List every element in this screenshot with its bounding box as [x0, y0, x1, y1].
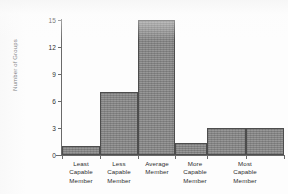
x-axis-label-line: Most: [223, 160, 267, 168]
y-tick-3: 3: [0, 128, 62, 129]
bar-4: [207, 128, 246, 155]
x-axis-label-line: Member: [97, 177, 141, 185]
x-tick-mark-0: [62, 156, 63, 159]
plot-area: [62, 20, 284, 155]
x-axis-label-line: More: [173, 160, 217, 168]
x-axis-label-line: Member: [223, 177, 267, 185]
x-tick-mark-1: [100, 156, 101, 159]
x-axis-label-3: MoreCapableMember: [173, 160, 217, 185]
y-tick-label: 15: [49, 17, 56, 24]
y-tick-15: 15: [0, 20, 62, 21]
x-axis-label-line: Capable: [223, 168, 267, 176]
y-tick-label: 9: [52, 71, 56, 78]
y-tick-6: 6: [0, 101, 62, 102]
y-tick-label: 6: [52, 98, 56, 105]
x-tick-mark-4: [207, 156, 208, 159]
x-axis-label-4: MostCapableMember: [223, 160, 267, 185]
y-tick-12: 12: [0, 47, 62, 48]
x-axis-label-line: Member: [173, 177, 217, 185]
x-tick-mark-6: [284, 156, 285, 159]
y-tick-label: 12: [49, 44, 56, 51]
bar-0: [62, 146, 100, 155]
x-tick-mark-2: [138, 156, 139, 159]
bar-5: [246, 128, 284, 155]
y-tick-0: 0: [0, 155, 62, 156]
bar-1: [100, 92, 138, 155]
y-tick-9: 9: [0, 74, 62, 75]
x-axis-label-line: Capable: [173, 168, 217, 176]
x-tick-mark-3: [175, 156, 176, 159]
bar-chart-figure: Number of Groups 03691215 LeastCapableMe…: [0, 0, 288, 194]
bar-3: [175, 143, 207, 155]
x-tick-mark-5: [246, 156, 247, 159]
x-axis-line: [56, 155, 285, 156]
y-tick-label: 3: [52, 125, 56, 132]
y-axis-ticks: 03691215: [0, 0, 62, 194]
bar-2: [138, 20, 175, 155]
y-tick-label: 0: [52, 152, 56, 159]
